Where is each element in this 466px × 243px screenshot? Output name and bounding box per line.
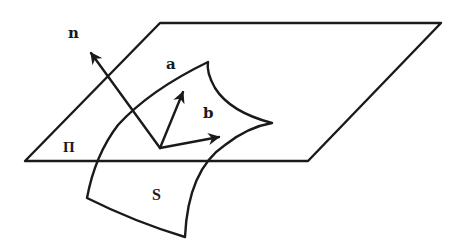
label-n: n	[68, 24, 79, 42]
tangent-plane-diagram: n a b Π S	[0, 0, 466, 243]
label-plane: Π	[63, 139, 75, 155]
tangent-vector-a	[160, 92, 183, 148]
label-b: b	[203, 104, 214, 122]
tangent-vector-b	[160, 137, 219, 148]
label-surface: S	[152, 186, 161, 203]
surface-s	[87, 62, 272, 237]
normal-vector-n	[91, 53, 160, 148]
label-a: a	[166, 55, 176, 73]
